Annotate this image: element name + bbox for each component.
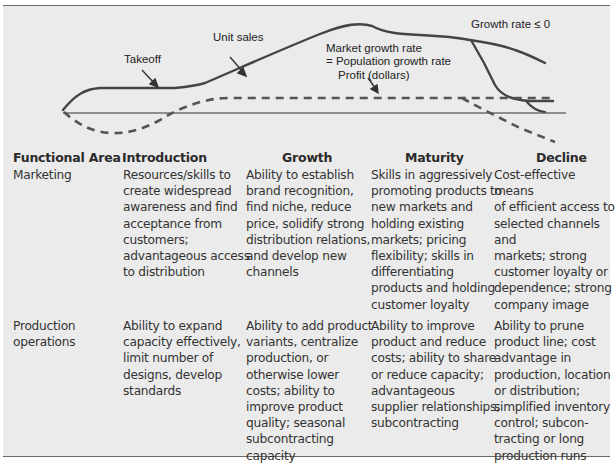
header-introduction: Introduction	[122, 150, 207, 165]
row-marketing-growth: Ability to establish brand recognition, …	[246, 167, 370, 280]
market-growth-label-line2: = Population growth rate	[326, 55, 451, 67]
header-growth: Growth	[282, 150, 332, 165]
header-maturity: Maturity	[405, 150, 464, 165]
takeoff-label: Takeoff	[124, 53, 162, 65]
unit-sales-decline-tail	[526, 101, 545, 112]
profit-label: Profit (dollars)	[338, 69, 410, 81]
row-marketing-area: Marketing	[13, 167, 72, 183]
takeoff-arrow	[142, 70, 158, 87]
profit-curve	[64, 98, 553, 133]
row-production-introduction: Ability to expand capacity effectively, …	[123, 318, 241, 399]
row-production-decline: Ability to prune product line; cost adva…	[494, 318, 611, 464]
row-marketing-decline: Cost-effective means of efficient access…	[494, 167, 616, 313]
unit-sales-label: Unit sales	[213, 31, 264, 43]
header-decline: Decline	[536, 150, 587, 165]
profit-decline-branch	[462, 98, 555, 142]
growth-rate-label: Growth rate ≤ 0	[471, 18, 550, 30]
header-functional-area: Functional Area	[13, 150, 121, 165]
life-cycle-chart: Takeoff Unit sales Market growth rate = …	[0, 0, 616, 150]
market-growth-label-line1: Market growth rate	[326, 42, 422, 54]
row-production-maturity: Ability to improve product and reduce co…	[371, 318, 500, 431]
row-marketing-introduction: Resources/skills to create widespread aw…	[123, 167, 250, 280]
row-production-growth: Ability to add product variants, central…	[246, 318, 372, 464]
row-marketing-maturity: Skills in aggressively promoting product…	[371, 167, 502, 313]
row-production-area: Production operations	[13, 318, 75, 350]
